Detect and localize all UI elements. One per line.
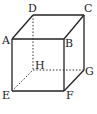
edge-da [12,15,33,39]
label-d: D [28,2,37,15]
edge-bc [64,15,84,39]
label-h: H [35,59,45,72]
label-f: F [66,89,74,102]
label-e: E [2,89,10,102]
label-c: C [84,2,92,15]
label-g: G [85,65,94,78]
edge-fg [64,70,84,91]
label-a: A [1,34,11,47]
label-b: B [65,37,73,50]
cube-diagram: D C A B H G E F [0,0,97,114]
edge-eh-hidden [12,70,33,91]
